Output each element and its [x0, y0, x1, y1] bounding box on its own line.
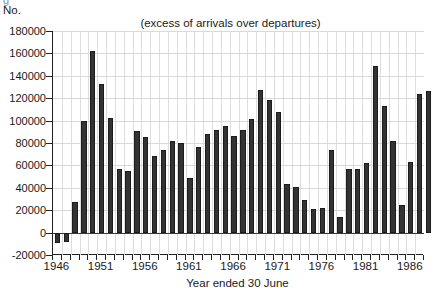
x-gridline	[62, 31, 63, 255]
y-axis-tick-label: 140000	[0, 70, 46, 81]
bar	[373, 66, 378, 233]
bar	[293, 187, 298, 233]
y-axis-tick-label: 0	[0, 227, 46, 238]
y-axis-tick-label: 100000	[0, 115, 46, 126]
x-axis-title: Year ended 30 June	[52, 277, 423, 290]
bar	[108, 118, 113, 232]
bar	[99, 84, 104, 233]
bar	[223, 126, 228, 232]
y-axis-tick-label: 60000	[0, 160, 46, 171]
bar	[311, 209, 316, 233]
y-axis-tick	[46, 210, 52, 211]
bar	[205, 134, 210, 233]
bar	[81, 121, 86, 233]
y-axis-tick-label: 20000	[0, 205, 46, 216]
y-axis-tick	[46, 53, 52, 54]
bar	[355, 169, 360, 233]
bar	[364, 163, 369, 232]
bar	[214, 130, 219, 233]
zero-baseline	[53, 233, 424, 234]
bar	[187, 178, 192, 233]
bar	[72, 202, 77, 232]
bar	[55, 233, 60, 243]
y-axis-tick	[46, 233, 52, 234]
bar	[125, 171, 130, 233]
bar	[302, 200, 307, 232]
y-axis-tick	[46, 165, 52, 166]
bar	[231, 136, 236, 232]
bar	[143, 137, 148, 232]
bar	[117, 169, 122, 233]
y-axis-tick	[46, 121, 52, 122]
y-axis-tick	[46, 143, 52, 144]
bar	[240, 130, 245, 233]
bar	[134, 131, 139, 233]
bar	[346, 169, 351, 233]
bar	[382, 106, 387, 233]
y-axis-tick-label: 120000	[0, 93, 46, 104]
chart-subtitle: (excess of arrivals over departures)	[0, 17, 427, 30]
y-axis-tick	[46, 188, 52, 189]
bar	[426, 91, 431, 232]
bar	[417, 94, 422, 233]
bar	[276, 112, 281, 233]
bar	[152, 156, 157, 232]
y-axis-tick	[46, 98, 52, 99]
y-axis-tick	[46, 31, 52, 32]
bar	[320, 208, 325, 233]
bar	[329, 150, 334, 233]
bar	[284, 184, 289, 232]
bar	[90, 51, 95, 232]
bar	[408, 162, 413, 233]
bar	[267, 100, 272, 232]
bar	[258, 90, 263, 232]
plot-area	[52, 31, 423, 255]
bar	[196, 147, 201, 232]
bar	[249, 119, 254, 232]
bar	[161, 150, 166, 233]
bar	[178, 143, 183, 233]
bar	[337, 217, 342, 233]
x-axis-tick-label: 1986	[380, 260, 435, 273]
bar	[390, 141, 395, 233]
y-axis-tick	[46, 76, 52, 77]
bar	[170, 141, 175, 233]
y-axis-tick-label: 40000	[0, 182, 46, 193]
bar	[399, 205, 404, 233]
bar	[64, 233, 69, 242]
y-axis-tick-label: 180000	[0, 26, 46, 37]
y-axis-tick-label: -20000	[0, 250, 46, 261]
y-axis-tick-label: 80000	[0, 138, 46, 149]
y-axis-tick-label: 160000	[0, 48, 46, 59]
y-axis-unit-label: No.	[3, 4, 21, 17]
